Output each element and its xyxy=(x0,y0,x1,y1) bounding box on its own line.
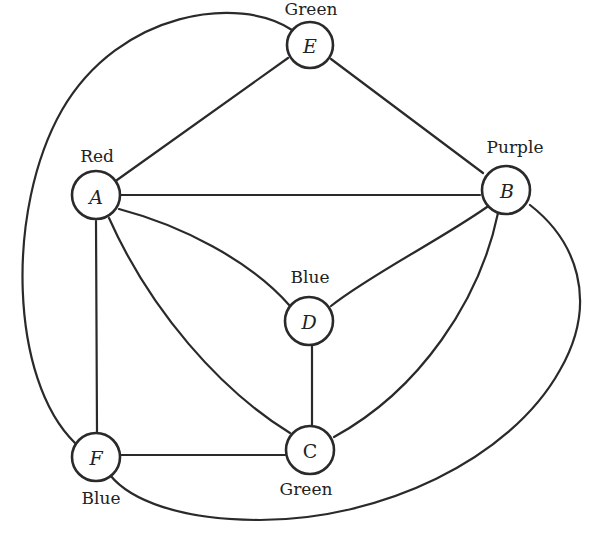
node-letter-f: F xyxy=(88,447,103,469)
color-label-e: Green xyxy=(285,0,338,19)
node-letter-b: B xyxy=(499,180,514,202)
edge-e-f xyxy=(23,13,292,443)
edge-a-f xyxy=(96,221,97,432)
node-letter-d: D xyxy=(300,311,316,333)
edge-e-b xyxy=(331,59,483,173)
edge-e-a xyxy=(117,58,288,180)
node-d: Blue D xyxy=(285,267,333,345)
node-letter-c: C xyxy=(303,440,318,462)
color-label-c: Green xyxy=(280,479,333,499)
edge-b-c xyxy=(334,213,498,437)
node-f: F Blue xyxy=(72,433,120,508)
node-letter-e: E xyxy=(302,35,317,57)
edge-b-d xyxy=(331,207,487,306)
node-c: C Green xyxy=(280,426,334,499)
node-b: Purple B xyxy=(482,137,543,214)
edge-a-d xyxy=(119,209,290,306)
color-label-f: Blue xyxy=(82,488,121,508)
edge-a-c xyxy=(109,218,290,433)
color-label-b: Purple xyxy=(487,137,544,157)
color-label-d: Blue xyxy=(291,267,330,287)
node-a: Red A xyxy=(72,146,120,219)
edge-b-f xyxy=(110,205,580,520)
node-letter-a: A xyxy=(87,186,103,208)
node-e: Green E xyxy=(285,0,338,68)
graph-coloring-diagram: Green E Red A Purple B Blue D C Green F … xyxy=(0,0,593,541)
color-label-a: Red xyxy=(80,146,114,166)
